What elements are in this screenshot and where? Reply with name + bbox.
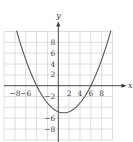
y-tick-label: −2 (44, 92, 55, 101)
x-axis-arrow (122, 84, 127, 88)
y-tick-label: 2 (51, 70, 56, 79)
parabola-curve (17, 31, 111, 113)
y-tick-label: −6 (44, 114, 55, 123)
x-axis-label: x (128, 81, 133, 90)
x-tick-label: 4 (78, 89, 83, 98)
x-tick-label: 2 (67, 89, 72, 98)
parabola-chart: xy−8−624688642−2−6−8 (0, 0, 133, 142)
y-tick-label: −8 (44, 125, 55, 134)
tick-labels: xy−8−624688642−2−6−8 (9, 11, 133, 134)
y-tick-label: 6 (51, 49, 56, 58)
y-tick-label: 8 (51, 38, 56, 47)
x-tick-label: 6 (88, 89, 93, 98)
x-tick-label: −8 (9, 89, 20, 98)
x-tick-label: 8 (99, 89, 104, 98)
y-tick-label: 4 (51, 60, 56, 69)
curve-layer (17, 31, 111, 113)
y-axis-label: y (55, 11, 61, 20)
x-tick-label: −6 (20, 89, 31, 98)
y-axis-arrow (56, 22, 60, 27)
